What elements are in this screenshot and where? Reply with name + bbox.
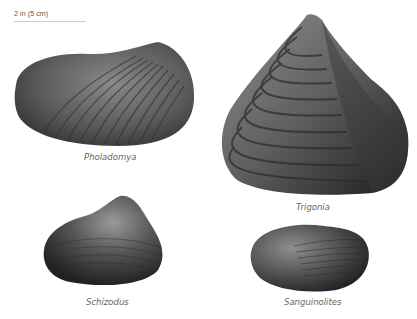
scale-bar-line [14, 21, 86, 22]
trigonia-label: Trigonia [296, 202, 330, 212]
pholadomya-label: Pholadomya [84, 152, 136, 162]
scale-bar-label: 2 in (5 cm) [14, 10, 86, 17]
sanguinolites-label: Sanguinolites [284, 297, 341, 307]
schizodus-label: Schizodus [86, 297, 129, 307]
schizodus-fossil-image [40, 194, 170, 288]
trigonia-fossil-image [212, 15, 412, 200]
pholadomya-fossil-image [8, 40, 198, 150]
sanguinolites-fossil-image [246, 222, 372, 294]
